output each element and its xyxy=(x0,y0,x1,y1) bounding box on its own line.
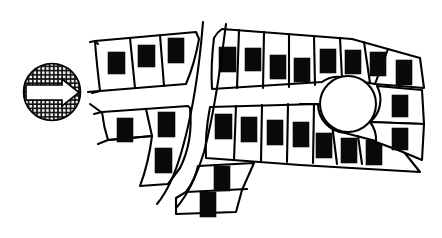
building-footprint xyxy=(293,122,309,147)
building-footprint xyxy=(245,48,261,71)
block-upper-right xyxy=(212,29,424,89)
north-arrow-badge xyxy=(22,62,82,122)
street-end-marks xyxy=(88,91,101,112)
building-footprint xyxy=(270,55,286,79)
parcel-divider xyxy=(313,104,314,163)
plat-map-figure: Plat map of subdivision blocks with buil… xyxy=(0,0,442,238)
cul-de-sac-boundary xyxy=(320,76,376,132)
building-footprint xyxy=(316,133,332,158)
parcel-divider xyxy=(263,32,264,88)
building-footprint xyxy=(341,138,357,163)
parcel-group-outline xyxy=(212,29,424,89)
plat-map-canvas xyxy=(0,0,442,238)
building-footprint xyxy=(117,118,133,142)
building-footprint xyxy=(158,112,175,137)
block-upper-left xyxy=(90,32,199,93)
building-footprint xyxy=(200,192,216,217)
parcel-group-outline xyxy=(102,106,191,186)
building-footprint xyxy=(267,120,283,145)
parcel-divider xyxy=(314,36,315,85)
building-footprint xyxy=(215,114,232,139)
street-horizontal xyxy=(88,91,101,112)
parcel-edge-tick xyxy=(90,41,98,44)
building-footprint xyxy=(392,128,408,150)
building-footprint xyxy=(294,58,310,82)
building-footprint xyxy=(396,60,412,85)
building-footprint xyxy=(345,50,361,74)
block-middle-left xyxy=(94,106,191,186)
parcel-divider xyxy=(287,104,288,162)
building-footprint xyxy=(168,38,184,63)
parcel-edge-tick xyxy=(98,140,108,144)
building-footprint xyxy=(241,117,257,142)
building-footprint xyxy=(320,49,336,73)
building-footprint xyxy=(155,148,172,173)
building-footprint xyxy=(138,45,155,67)
parcel-divider xyxy=(261,105,262,161)
building-footprint xyxy=(392,95,408,117)
building-footprint xyxy=(370,52,386,76)
building-footprint xyxy=(214,166,230,191)
building-footprint xyxy=(108,52,125,74)
